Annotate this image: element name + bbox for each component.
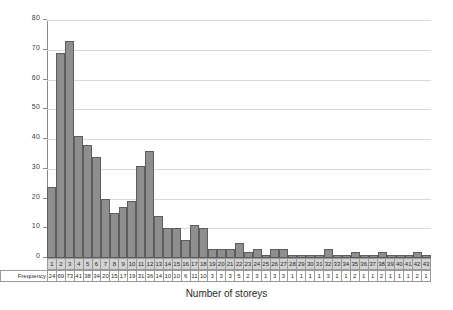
- bar: [181, 240, 190, 258]
- category-cell: 43: [421, 259, 430, 269]
- bar: [101, 199, 110, 259]
- frequency-cell: 20: [100, 271, 109, 281]
- bar: [127, 201, 136, 258]
- bar: [190, 225, 199, 258]
- bar-slot: [297, 20, 306, 258]
- bar-slot: [351, 20, 360, 258]
- bar: [172, 228, 181, 258]
- category-cell: 9: [118, 259, 127, 269]
- histogram-figure: 01020304050607080 1234567891011121314151…: [0, 0, 453, 310]
- frequency-cell: 2: [350, 271, 359, 281]
- category-cell: 18: [198, 259, 207, 269]
- category-cell: 5: [83, 259, 92, 269]
- bars-container: [47, 20, 431, 258]
- bar: [83, 145, 92, 258]
- category-cell: 24: [252, 259, 261, 269]
- frequency-cell: 1: [341, 271, 350, 281]
- frequency-cell: 1: [421, 271, 430, 281]
- bar-slot: [262, 20, 271, 258]
- bar-slot: [154, 20, 163, 258]
- frequency-cell: 1: [305, 271, 314, 281]
- x-axis-title: Number of storeys: [0, 288, 453, 300]
- bar: [199, 228, 208, 258]
- category-cell: 34: [341, 259, 350, 269]
- category-cell: 40: [394, 259, 403, 269]
- bar-slot: [387, 20, 396, 258]
- category-cell: 15: [172, 259, 181, 269]
- frequency-cell: 11: [190, 271, 199, 281]
- category-cell: 8: [109, 259, 118, 269]
- frequency-cell: 3: [270, 271, 279, 281]
- frequency-cell: 73: [65, 271, 74, 281]
- frequency-cell: 6: [181, 271, 190, 281]
- frequency-cell: 19: [127, 271, 136, 281]
- frequency-cell: 10: [172, 271, 181, 281]
- frequency-cells: 2469734138342015171931361410106111033352…: [47, 270, 431, 282]
- frequency-cell: 1: [332, 271, 341, 281]
- bar-slot: [74, 20, 83, 258]
- category-cell: 23: [243, 259, 252, 269]
- frequency-cell: 1: [296, 271, 305, 281]
- bar-slot: [217, 20, 226, 258]
- category-cell: 22: [234, 259, 243, 269]
- bar: [217, 249, 226, 258]
- frequency-cell: 14: [154, 271, 163, 281]
- category-cell: 38: [377, 259, 386, 269]
- frequency-cell: 3: [207, 271, 216, 281]
- frequency-cell: 3: [279, 271, 288, 281]
- frequency-data-table: 1234567891011121314151617181920212223242…: [0, 258, 431, 282]
- frequency-cell: 15: [109, 271, 118, 281]
- category-cell: 4: [74, 259, 83, 269]
- bar-slot: [208, 20, 217, 258]
- bar-slot: [235, 20, 244, 258]
- y-tick-label-40: 40: [32, 133, 40, 140]
- bar-slot: [253, 20, 262, 258]
- bar: [270, 249, 279, 258]
- bar-slot: [56, 20, 65, 258]
- bar-slot: [65, 20, 74, 258]
- frequency-cell: 1: [368, 271, 377, 281]
- bar-slot: [83, 20, 92, 258]
- bar-slot: [244, 20, 253, 258]
- frequency-cell: 1: [385, 271, 394, 281]
- frequency-cell: 1: [394, 271, 403, 281]
- bar-slot: [181, 20, 190, 258]
- category-row-label: [0, 258, 47, 270]
- frequency-cell: 1: [314, 271, 323, 281]
- bar-slot: [92, 20, 101, 258]
- frequency-cell: 38: [83, 271, 92, 281]
- bar: [154, 216, 163, 258]
- category-cell: 35: [350, 259, 359, 269]
- frequency-cell: 31: [136, 271, 145, 281]
- y-tick-label-60: 60: [32, 74, 40, 81]
- bar: [226, 249, 235, 258]
- bar-slot: [136, 20, 145, 258]
- bar: [324, 249, 333, 258]
- frequency-cell: 5: [234, 271, 243, 281]
- category-cell: 37: [368, 259, 377, 269]
- frequency-cell: 2: [412, 271, 421, 281]
- bar: [136, 166, 145, 258]
- bar: [279, 249, 288, 258]
- y-tick-label-30: 30: [32, 163, 40, 170]
- y-tick-label-70: 70: [32, 44, 40, 51]
- category-cell: 41: [403, 259, 412, 269]
- bar: [47, 187, 56, 258]
- bar-slot: [405, 20, 414, 258]
- bar: [235, 243, 244, 258]
- category-cell: 28: [287, 259, 296, 269]
- category-cell: 31: [314, 259, 323, 269]
- y-tick-label-50: 50: [32, 103, 40, 110]
- y-axis-ticks: 01020304050607080: [0, 20, 47, 258]
- frequency-cell: 24: [47, 271, 56, 281]
- frequency-row-label: Frequency: [0, 270, 47, 282]
- bar-slot: [315, 20, 324, 258]
- bar-slot: [422, 20, 431, 258]
- bar: [119, 207, 128, 258]
- category-cell: 12: [145, 259, 154, 269]
- frequency-cell: 1: [359, 271, 368, 281]
- bar-slot: [360, 20, 369, 258]
- bar-slot: [101, 20, 110, 258]
- category-cell: 42: [412, 259, 421, 269]
- bar-slot: [199, 20, 208, 258]
